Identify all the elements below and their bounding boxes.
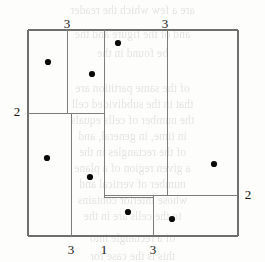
partition-point-dot-1 [45,59,51,65]
partition-point-dot-3 [115,40,121,46]
partition-point-dot-8 [169,216,175,222]
partition-line-group [28,30,238,236]
label-top-right: 3 [157,17,173,30]
label-right: 2 [240,188,256,201]
partition-point-dot-4 [44,155,50,161]
label-bottom-left: 3 [63,243,79,256]
rectangle-partition-diagram [0,0,265,262]
partition-point-dot-6 [87,174,93,180]
label-top-left: 3 [59,17,75,30]
partition-point-dot-2 [89,71,95,77]
label-bottom-middle: 1 [96,243,112,256]
label-left: 2 [9,105,25,118]
partition-point-dot-5 [211,161,217,167]
partition-point-dot-7 [125,209,131,215]
label-bottom-right: 3 [145,243,161,256]
partition-figure: are a few which the readerand of the fig… [0,0,265,262]
